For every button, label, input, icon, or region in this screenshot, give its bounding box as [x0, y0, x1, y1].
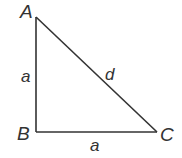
edge-label-bc: a [90, 136, 99, 155]
edge-label-ac: d [105, 65, 115, 84]
vertex-label-c: C [160, 124, 174, 145]
vertex-label-b: B [17, 123, 30, 144]
vertex-label-a: A [19, 1, 33, 22]
triangle-diagram: A B C a a d [0, 0, 182, 158]
edge-ac [36, 17, 157, 132]
edge-label-ab: a [21, 67, 30, 86]
